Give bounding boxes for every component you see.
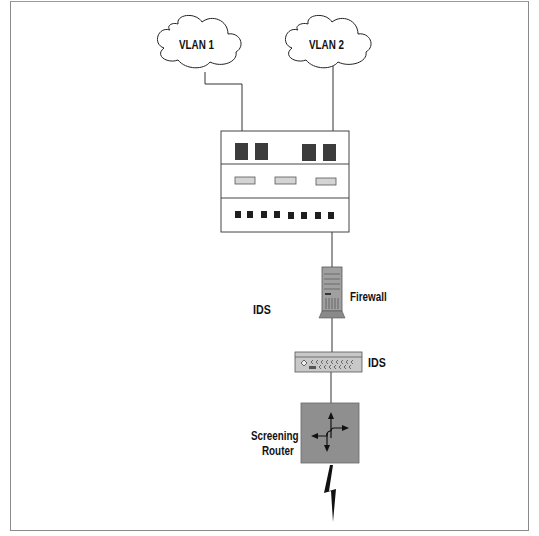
router-label-line2: Router: [262, 444, 294, 458]
port-icon: [323, 144, 336, 161]
module-icon: [316, 178, 336, 185]
vlan1-label: VLAN 1: [179, 38, 214, 52]
ids-device-icon: [295, 352, 362, 372]
module-icon: [235, 177, 255, 184]
lightning-bolt-icon: [324, 465, 336, 522]
firewall-server-icon: [319, 267, 345, 318]
port-icon: [255, 143, 268, 160]
vlan2-label: VLAN 2: [309, 38, 344, 52]
router-label-line1: Screening: [251, 429, 299, 443]
port-icon: [235, 143, 248, 160]
firewall-label: Firewall: [350, 290, 387, 304]
ids-side-label: IDS: [253, 302, 271, 317]
ids-label: IDS: [368, 355, 386, 370]
switch-chassis-icon: [221, 131, 349, 232]
port-icon: [302, 144, 316, 161]
module-icon: [275, 177, 296, 184]
router-icon: [301, 403, 359, 463]
